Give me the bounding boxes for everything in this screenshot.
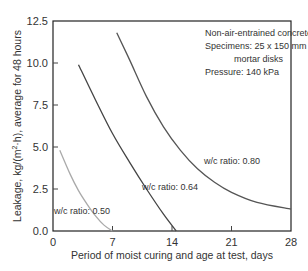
y-tick-label: 2.5 xyxy=(33,183,48,195)
x-tick-label: 14 xyxy=(166,236,178,248)
annotation-pressure: Pressure: 140 kPa xyxy=(205,67,279,77)
leakage-chart: 07142128 0.02.55.07.510.012.5 w/c ratio:… xyxy=(0,0,308,271)
series-label-wc-064: w/c ratio: 0.64 xyxy=(141,182,198,192)
y-axis-label: Leakage, kg/(m2·h), average for 48 hours xyxy=(11,30,23,222)
y-axis-label-part1: Leakage, kg/(m xyxy=(11,149,23,222)
y-tick-label: 7.5 xyxy=(33,99,48,111)
x-tick-label: 7 xyxy=(109,236,115,248)
series-label-wc-080: w/c ratio: 0.80 xyxy=(203,156,260,166)
y-tick-label: 12.5 xyxy=(27,15,48,27)
series-line-wc-050 xyxy=(60,150,113,231)
y-tick-label: 0.0 xyxy=(33,225,48,237)
y-tick-label: 5.0 xyxy=(33,141,48,153)
x-axis-label: Period of moist curing and age at test, … xyxy=(71,249,273,261)
series-label-wc-050: w/c ratio: 0.50 xyxy=(53,206,110,216)
plot-frame xyxy=(53,21,291,231)
annotation-concrete-type: Non-air-entrained concrete xyxy=(205,28,308,38)
plot-area xyxy=(53,21,291,231)
annotation-mortar-disks: mortar disks xyxy=(234,54,284,64)
x-axis: 07142128 xyxy=(50,226,297,248)
y-tick-label: 10.0 xyxy=(27,57,48,69)
y-axis-label-part2: ·h), average for 48 hours xyxy=(11,30,23,146)
annotation-block: Non-air-entrained concrete Specimens: 25… xyxy=(205,28,308,77)
x-tick-label: 0 xyxy=(50,236,56,248)
x-tick-label: 28 xyxy=(285,236,297,248)
x-tick-label: 21 xyxy=(225,236,237,248)
annotation-specimens: Specimens: 25 x 150 mm xyxy=(205,41,307,51)
